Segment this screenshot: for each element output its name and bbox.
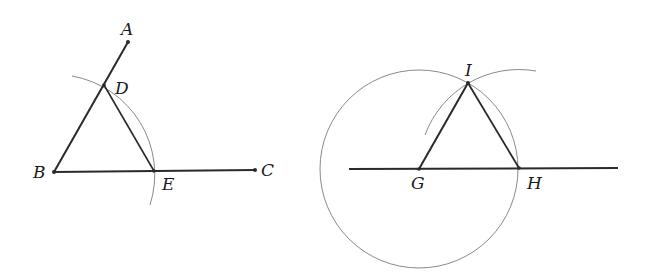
label-b: B — [32, 162, 46, 182]
point-c — [253, 168, 257, 172]
left-figure: A B C D E — [32, 19, 274, 205]
point-b — [52, 170, 56, 174]
segment-gi — [419, 83, 468, 169]
label-d: D — [114, 78, 129, 98]
point-d — [102, 83, 106, 87]
base-line — [349, 168, 618, 169]
point-g — [417, 167, 421, 171]
geometry-diagram: A B C D E G H I — [0, 0, 649, 280]
point-i — [466, 81, 470, 85]
label-c: C — [261, 160, 274, 180]
point-e — [152, 169, 156, 173]
label-a: A — [119, 19, 133, 39]
segment-de — [104, 85, 154, 171]
point-a — [126, 40, 130, 44]
right-figure: G H I — [320, 60, 618, 268]
label-h: H — [526, 173, 543, 193]
label-g: G — [411, 173, 425, 193]
segment-hi — [468, 83, 519, 168]
arc-centered-b — [72, 76, 155, 205]
label-e: E — [161, 174, 175, 194]
point-h — [517, 166, 521, 170]
label-i: I — [464, 60, 472, 80]
